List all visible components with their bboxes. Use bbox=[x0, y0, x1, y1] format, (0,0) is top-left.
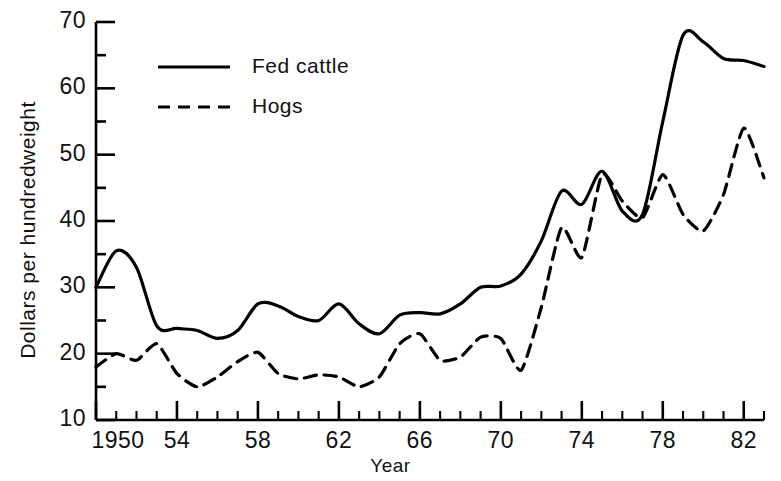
series-line-fed-cattle bbox=[96, 31, 764, 339]
legend-label-hogs: Hogs bbox=[252, 94, 303, 118]
x-tick-label: 70 bbox=[456, 427, 546, 454]
y-tick-label: 60 bbox=[30, 73, 86, 100]
price-chart: Dollars per hundredweight Year 102030405… bbox=[0, 0, 781, 481]
x-tick-label: 58 bbox=[213, 427, 303, 454]
x-tick-label: 78 bbox=[618, 427, 708, 454]
axes bbox=[96, 22, 764, 420]
x-tick-label: 66 bbox=[375, 427, 465, 454]
plot-area bbox=[0, 0, 781, 481]
y-tick-label: 40 bbox=[30, 206, 86, 233]
y-tick-label: 30 bbox=[30, 272, 86, 299]
series-line-hogs bbox=[96, 128, 764, 387]
legend-label-fed-cattle: Fed cattle bbox=[252, 54, 349, 78]
x-tick-label: 82 bbox=[699, 427, 781, 454]
legend-swatches bbox=[158, 67, 230, 107]
y-tick-label: 50 bbox=[30, 140, 86, 167]
y-tick-label: 70 bbox=[30, 7, 86, 34]
x-tick-label: 54 bbox=[132, 427, 222, 454]
x-tick-label: 74 bbox=[537, 427, 627, 454]
data-series bbox=[96, 31, 764, 387]
x-tick-label: 62 bbox=[294, 427, 384, 454]
y-tick-label: 20 bbox=[30, 339, 86, 366]
